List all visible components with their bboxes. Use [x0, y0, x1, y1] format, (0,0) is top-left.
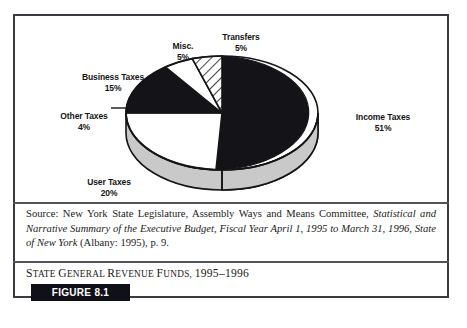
pie-label-other-taxes: Other Taxes 4% — [46, 111, 122, 133]
pie-chart: Misc. 5% Transfers 5% Business Taxes 15%… — [15, 16, 447, 202]
caption-years: 1995–1996 — [195, 267, 249, 280]
divider-above-source — [13, 202, 449, 204]
pie-label-business-taxes-pct: 15% — [66, 83, 160, 94]
pie-label-business-taxes-name: Business Taxes — [82, 72, 144, 82]
caption-word-state: TATE — [33, 269, 59, 279]
caption-cap-s: S — [26, 267, 33, 280]
pie-label-transfers-name: Transfers — [222, 32, 259, 42]
source-note-tail: (Albany: 1995), p. 9. — [77, 237, 169, 248]
pie-label-user-taxes-name: User Taxes — [87, 177, 131, 187]
source-note: Source: New York State Legislature, Asse… — [26, 207, 436, 251]
pie-label-user-taxes: User Taxes 20% — [71, 177, 147, 199]
pie-label-other-taxes-pct: 4% — [46, 122, 122, 133]
pie-label-income-taxes: Income Taxes 51% — [342, 112, 424, 134]
figure-caption: STATE GENERAL REVENUE FUNDS, 1995–1996 — [26, 267, 249, 280]
pie-label-misc-pct: 5% — [160, 52, 206, 63]
caption-word-revenue: EVENUE — [115, 269, 156, 279]
divider-above-caption — [13, 261, 449, 263]
caption-word-general: ENERAL — [67, 269, 107, 279]
pie-label-income-taxes-name: Income Taxes — [356, 112, 410, 122]
pie-label-transfers-pct: 5% — [208, 43, 274, 54]
figure-number-tag: FIGURE 8.1 — [31, 284, 130, 301]
figure-container: Misc. 5% Transfers 5% Business Taxes 15%… — [0, 0, 467, 328]
pie-label-business-taxes: Business Taxes 15% — [66, 72, 160, 94]
pie-label-misc: Misc. 5% — [160, 41, 206, 63]
pie-label-other-taxes-name: Other Taxes — [60, 111, 107, 121]
caption-word-funds: UNDS, — [163, 269, 194, 279]
caption-cap-g: G — [58, 267, 67, 280]
source-note-lead: Source: New York State Legislature, Asse… — [26, 208, 373, 219]
pie-label-user-taxes-pct: 20% — [71, 188, 147, 199]
figure-number-tag-label: FIGURE 8.1 — [52, 287, 109, 298]
pie-label-income-taxes-pct: 51% — [342, 123, 424, 134]
pie-label-misc-name: Misc. — [173, 41, 194, 51]
pie-label-transfers: Transfers 5% — [208, 32, 274, 54]
